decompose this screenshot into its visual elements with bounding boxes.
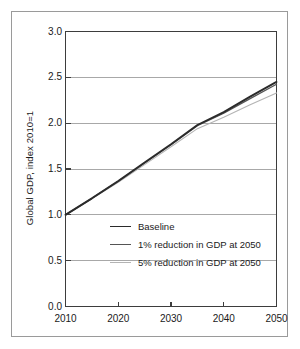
x-tick-label: 2020 — [98, 314, 138, 324]
x-tick-label: 2050 — [257, 314, 297, 324]
legend-label: 5% reduction in GDP at 2050 — [138, 257, 261, 268]
x-tick-label: 2030 — [151, 314, 191, 324]
legend-label: Baseline — [138, 221, 174, 232]
chart-figure: Global GDP, index 2010=1 0.00.51.01.52.0… — [0, 0, 300, 349]
legend-swatch-icon — [110, 262, 131, 263]
legend-item: 1% reduction in GDP at 2050 — [110, 236, 261, 253]
chart-legend: Baseline1% reduction in GDP at 20505% re… — [110, 218, 278, 274]
legend-swatch-icon — [110, 244, 131, 245]
x-tick-label: 2040 — [204, 314, 244, 324]
x-axis-tick-labels: 20102020203020402050 — [0, 0, 300, 349]
legend-swatch-icon — [110, 226, 131, 227]
legend-item: Baseline — [110, 218, 174, 235]
x-tick-label: 2010 — [46, 314, 86, 324]
legend-item: 5% reduction in GDP at 2050 — [110, 254, 261, 271]
legend-label: 1% reduction in GDP at 2050 — [138, 239, 261, 250]
